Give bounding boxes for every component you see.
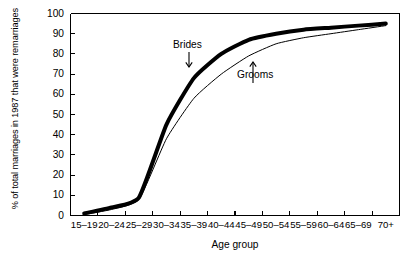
annotation-grooms: Grooms	[237, 70, 273, 80]
series-line-grooms	[84, 26, 386, 215]
x-tick-label: 35–39	[181, 220, 208, 230]
annotation-brides: Brides	[173, 40, 202, 50]
x-tick-label: 20–24	[98, 220, 125, 230]
y-axis-ticks	[71, 14, 76, 216]
y-tick-label: 20	[40, 170, 64, 180]
y-tick-label: 30	[40, 150, 64, 160]
axis-lines	[71, 14, 400, 216]
y-tick-label: 60	[40, 89, 64, 99]
y-tick-label: 0	[40, 210, 64, 220]
y-axis-title: % of total marriages in 1987 that were r…	[11, 1, 20, 217]
series-line-brides	[84, 24, 386, 214]
x-tick-label: 45–49	[235, 220, 262, 230]
y-tick-label: 10	[40, 190, 64, 200]
x-axis-ticks	[98, 211, 372, 216]
x-tick-label: 30–34	[153, 220, 180, 230]
x-axis-title: Age group	[70, 240, 400, 250]
x-tick-label: 25–29	[126, 220, 153, 230]
y-axis-tick-labels: 0 10 20 30 40 50 60 70 80 90 100	[38, 0, 64, 260]
x-tick-label: 60–64	[318, 220, 345, 230]
x-tick-label: 65–69	[345, 220, 372, 230]
y-tick-label: 50	[40, 109, 64, 119]
data-series-lines	[84, 24, 386, 215]
x-tick-label: 40–44	[208, 220, 235, 230]
x-tick-label: 50–54	[263, 220, 290, 230]
x-tick-label: 55–59	[290, 220, 317, 230]
y-tick-label: 70	[40, 69, 64, 79]
x-tick-label: 70+	[378, 220, 394, 230]
y-tick-label: 90	[40, 29, 64, 39]
y-tick-label: 80	[40, 49, 64, 59]
y-tick-label: 40	[40, 130, 64, 140]
arrow-down-icon	[186, 52, 192, 67]
x-tick-label: 15–19	[71, 220, 98, 230]
y-tick-label: 100	[40, 8, 64, 18]
remarriages-line-chart: % of total marriages in 1987 that were r…	[0, 0, 414, 260]
